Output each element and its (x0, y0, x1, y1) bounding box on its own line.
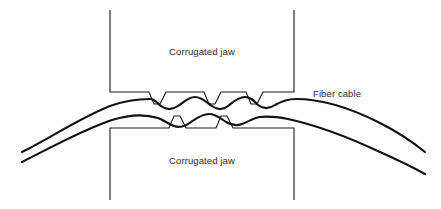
upper-jaw-label: Corrugated jaw (0, 47, 404, 57)
lower-jaw-label: Corrugated jaw (0, 156, 404, 166)
diagram-canvas: Corrugated jaw Corrugated jaw Fiber cabl… (0, 0, 441, 209)
fiber-cable-label: Fiber cable (313, 89, 361, 99)
fiber-cable-upper-edge (22, 97, 425, 152)
corrugated-jaw-diagram (0, 0, 441, 209)
upper-jaw-outline (110, 10, 294, 104)
